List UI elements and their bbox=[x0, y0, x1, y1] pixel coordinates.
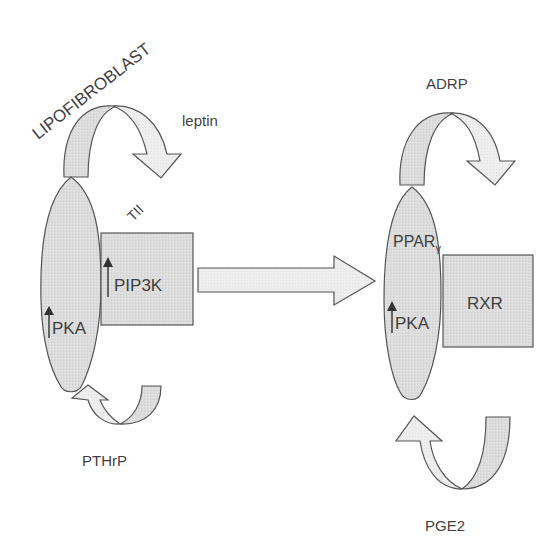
transition-arrow bbox=[198, 256, 375, 305]
right-pka-label: PKA bbox=[395, 314, 430, 333]
adrp-loop-arrow bbox=[400, 113, 515, 185]
left-receptor-ellipse bbox=[41, 177, 101, 392]
tii-label: TII bbox=[124, 201, 147, 224]
leptin-label: leptin bbox=[182, 112, 218, 129]
pip3k-label: PIP3K bbox=[114, 276, 163, 295]
right-receptor-ellipse bbox=[384, 187, 441, 400]
pge2-label: PGE2 bbox=[425, 517, 465, 534]
pthrp-label: PTHrP bbox=[82, 452, 127, 469]
ppar-subscript: γ bbox=[435, 242, 441, 254]
pge2-loop-arrow bbox=[396, 416, 510, 489]
leptin-loop-arrow bbox=[64, 106, 181, 178]
rxr-label: RXR bbox=[467, 294, 503, 313]
left-pka-label: PKA bbox=[52, 319, 87, 338]
pthrp-loop-arrow bbox=[72, 385, 161, 424]
ppar-label-text: PPAR bbox=[393, 233, 435, 250]
adrp-label: ADRP bbox=[426, 75, 468, 92]
signaling-diagram: LIPOFIBROBLAST leptin TII PIP3K PKA PTHr… bbox=[0, 0, 556, 547]
